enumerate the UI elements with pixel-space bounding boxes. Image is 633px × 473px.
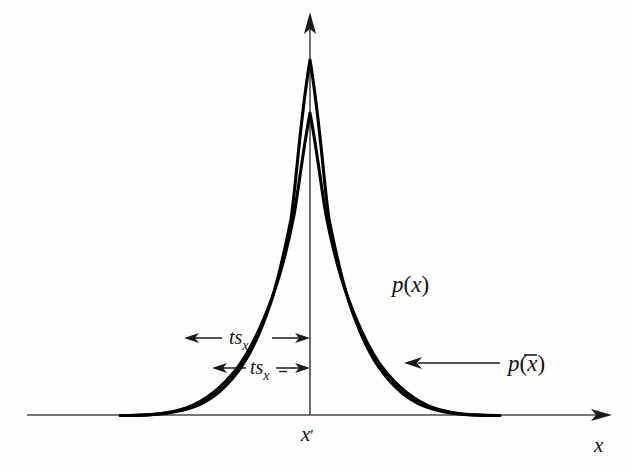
- interval-inner-subscript: x: [262, 368, 270, 383]
- label-p-of-x-bar-close: ): [537, 351, 545, 376]
- distribution-figure: tsx tsx p(x): [0, 0, 633, 473]
- label-p-of-x-close: ): [421, 272, 429, 297]
- interval-annotation-outer: tsx: [184, 326, 310, 353]
- x-axis-label: x: [593, 433, 604, 457]
- label-p-of-x-bar: p(x): [404, 351, 545, 376]
- center-tick-label-group: x′: [300, 422, 314, 446]
- label-p-of-x-p: p: [390, 272, 404, 297]
- interval-inner-ts: ts: [250, 356, 264, 378]
- label-p-of-x-var: x: [410, 272, 422, 297]
- center-tick-label: x′: [300, 422, 314, 446]
- label-p-of-x-bar-p: p: [506, 351, 520, 376]
- label-p-of-x: p(x): [390, 272, 429, 297]
- interval-outer-label: tsx: [229, 326, 249, 353]
- interval-outer-subscript: x: [241, 338, 249, 353]
- curve-p-of-x-bar: [126, 60, 498, 416]
- figure-canvas: tsx tsx p(x): [0, 0, 633, 473]
- interval-outer-ts: ts: [229, 326, 243, 348]
- center-tick-prime: ′: [310, 427, 314, 444]
- label-p-of-x-open: (: [404, 272, 412, 297]
- x-axis-label-group: x: [593, 433, 604, 457]
- interval-inner-label: tsx: [250, 356, 270, 383]
- label-p-of-x-text: p(x): [390, 272, 429, 297]
